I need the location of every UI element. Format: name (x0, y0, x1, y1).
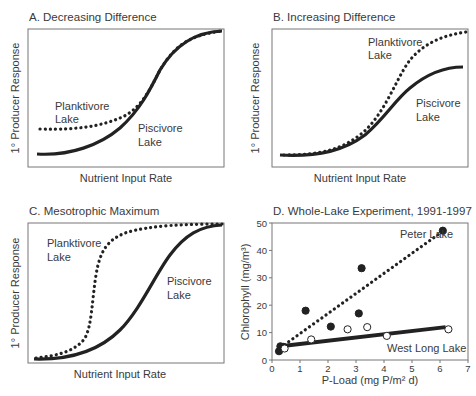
panel-d-peter-lake-label: Peter Lake (400, 228, 453, 240)
panel-a-planktivore-label-2: Lake (55, 113, 79, 125)
panel-c-x-axis-label: Nutrient Input Rate (74, 368, 166, 380)
x-tick-label: 3 (353, 363, 358, 374)
panel-d-x-axis-label: P-Load (mg P/m² d) (322, 374, 419, 386)
panel-c-title: C. Mesotrophic Maximum (29, 205, 159, 217)
panel-d-frame (272, 223, 468, 360)
west-long-lake-point (445, 326, 452, 333)
west-long-lake-point (364, 324, 371, 331)
panel-c-y-axis-label: 1° Producer Response (9, 238, 21, 349)
panel-c-piscivore-label: Piscivore (167, 275, 212, 287)
x-tick-label: 0 (269, 363, 274, 374)
panel-a-title: A. Decreasing Difference (29, 11, 157, 23)
panel-b-planktivore-label: Planktivore (368, 36, 422, 48)
panel-c-planktivore-label: Planktivore (47, 237, 101, 249)
x-tick-label: 7 (465, 363, 470, 374)
y-tick-label: 50 (256, 218, 267, 229)
panel-c: C. Mesotrophic Maximum Planktivore Lake … (9, 205, 224, 380)
peter-lake-point (358, 265, 365, 272)
panel-b-title: B. Increasing Difference (273, 11, 396, 23)
west-long-lake-point (344, 326, 351, 333)
y-tick-label: 30 (256, 272, 267, 283)
panel-c-piscivore-label-2: Lake (167, 289, 191, 301)
y-tick-label: 0 (262, 355, 267, 366)
panel-d-plot-area (275, 227, 452, 355)
panel-a-piscivore-label-2: Lake (138, 136, 162, 148)
x-tick-label: 6 (437, 363, 442, 374)
peter-lake-point (327, 323, 334, 330)
panel-b-x-axis-label: Nutrient Input Rate (314, 172, 406, 184)
y-tick-label: 20 (256, 300, 267, 311)
west-long-lake-point (308, 336, 315, 343)
panel-a: A. Decreasing Difference Planktivore Lak… (9, 11, 224, 184)
panel-b-piscivore-label: Piscivore (416, 97, 461, 109)
panel-c-planktivore-label-2: Lake (47, 251, 71, 263)
west-long-lake-point (281, 345, 288, 352)
panel-a-y-axis-label: 1° Producer Response (9, 43, 21, 154)
panel-b: B. Increasing Difference Planktivore Lak… (249, 11, 468, 184)
west-long-lake-point (383, 332, 390, 339)
panel-d-west-long-lake-label: West Long Lake (387, 342, 466, 354)
x-tick-label: 5 (409, 363, 414, 374)
peter-lake-point (355, 310, 362, 317)
panel-b-piscivore-label-2: Lake (416, 111, 440, 123)
x-tick-label: 1 (297, 363, 302, 374)
x-tick-label: 2 (325, 363, 330, 374)
panel-a-frame (28, 29, 224, 167)
peter-lake-point (302, 307, 309, 314)
panel-a-piscivore-label: Piscivore (138, 122, 183, 134)
y-tick-label: 40 (256, 245, 267, 256)
panel-b-y-axis-label: 1° Producer Response (249, 43, 261, 154)
panel-a-planktivore-label: Planktivore (55, 100, 109, 112)
panel-d-y-axis-label: Chlorophyll (mg/m³) (239, 244, 251, 341)
figure: A. Decreasing Difference Planktivore Lak… (0, 0, 476, 396)
y-tick-label: 10 (256, 327, 267, 338)
x-tick-label: 4 (381, 363, 386, 374)
panel-b-planktivore-label-2: Lake (368, 49, 392, 61)
panel-a-x-axis-label: Nutrient Input Rate (80, 172, 172, 184)
panel-d: D. Whole-Lake Experiment, 1991-1997 0123… (239, 205, 472, 386)
panel-d-title: D. Whole-Lake Experiment, 1991-1997 (273, 205, 472, 217)
panel-a-piscivore-curve (37, 31, 222, 154)
